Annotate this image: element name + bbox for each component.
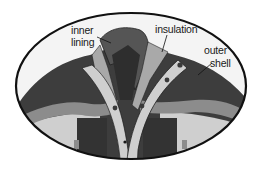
snap-button (165, 78, 170, 83)
jacket-illustration (0, 0, 261, 172)
zipper-pull (123, 140, 126, 143)
snap-button (177, 62, 182, 67)
label-inner-lining-line1: inner (71, 25, 93, 36)
label-outer-shell-line2: shell (210, 58, 231, 69)
snap-button (140, 104, 145, 109)
left-dark-block (77, 118, 107, 172)
right-dark-block (143, 118, 177, 172)
left-pocket-tab (74, 140, 79, 149)
right-pocket-tab (182, 140, 187, 149)
label-inner-lining-line2: lining (71, 37, 94, 48)
jacket-layers-diagram: inner lining insulation outer shell (0, 0, 261, 172)
label-outer-shell-line1: outer (204, 45, 227, 56)
label-insulation: insulation (155, 24, 197, 35)
snap-button (113, 106, 118, 111)
